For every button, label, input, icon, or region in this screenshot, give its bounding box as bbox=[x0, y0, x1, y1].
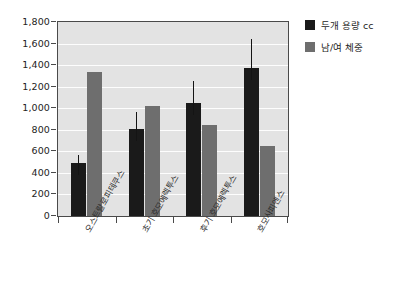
y-tick-mark bbox=[51, 193, 56, 194]
y-tick-label: 800 bbox=[32, 123, 50, 134]
legend: 두개 용량 cc남/여 체중 bbox=[305, 18, 374, 62]
legend-label: 두개 용량 cc bbox=[321, 18, 374, 32]
legend-swatch bbox=[305, 20, 315, 30]
x-tick-mark bbox=[231, 217, 232, 223]
error-bar bbox=[78, 155, 79, 176]
y-tick-mark bbox=[51, 86, 56, 87]
y-tick-mark bbox=[51, 172, 56, 173]
bar bbox=[87, 72, 102, 216]
bar bbox=[186, 103, 201, 216]
error-bar bbox=[251, 39, 252, 81]
bar-group bbox=[244, 22, 275, 216]
y-tick-mark bbox=[51, 43, 56, 44]
bar bbox=[260, 146, 275, 216]
y-tick-label: 1,400 bbox=[22, 59, 50, 70]
y-tick-label: 400 bbox=[32, 166, 50, 177]
x-axis bbox=[58, 217, 288, 224]
bar bbox=[244, 68, 259, 216]
bar-group bbox=[71, 22, 102, 216]
y-tick-label: 1,000 bbox=[22, 102, 50, 113]
error-bar bbox=[193, 81, 194, 115]
legend-item: 두개 용량 cc bbox=[305, 18, 374, 32]
y-tick-mark bbox=[51, 129, 56, 130]
y-tick-label: 200 bbox=[32, 188, 50, 199]
y-tick-label: 0 bbox=[44, 210, 50, 221]
y-tick-mark bbox=[51, 215, 56, 216]
bar-group bbox=[186, 22, 217, 216]
y-tick-mark bbox=[51, 21, 56, 22]
y-tick-mark bbox=[51, 150, 56, 151]
y-tick-label: 1,200 bbox=[22, 80, 50, 91]
legend-label: 남/여 체중 bbox=[321, 40, 363, 54]
y-tick-label: 600 bbox=[32, 145, 50, 156]
y-tick-label: 1,800 bbox=[22, 16, 50, 27]
legend-swatch bbox=[305, 42, 315, 52]
bars-layer bbox=[58, 22, 288, 216]
y-tick-mark bbox=[51, 107, 56, 108]
bar bbox=[145, 106, 160, 216]
bar-chart-figure: 02004006008001,0001,2001,4001,6001,800 오… bbox=[0, 0, 414, 307]
legend-item: 남/여 체중 bbox=[305, 40, 374, 54]
y-axis: 02004006008001,0001,2001,4001,6001,800 bbox=[0, 21, 50, 217]
error-bar bbox=[136, 112, 137, 141]
x-tick-mark bbox=[58, 217, 59, 223]
bar-group bbox=[129, 22, 160, 216]
bar bbox=[129, 129, 144, 216]
x-tick-mark bbox=[173, 217, 174, 223]
y-tick-mark bbox=[51, 64, 56, 65]
bar bbox=[202, 125, 217, 216]
x-tick-mark bbox=[287, 217, 288, 223]
y-tick-label: 1,600 bbox=[22, 37, 50, 48]
x-tick-mark bbox=[116, 217, 117, 223]
